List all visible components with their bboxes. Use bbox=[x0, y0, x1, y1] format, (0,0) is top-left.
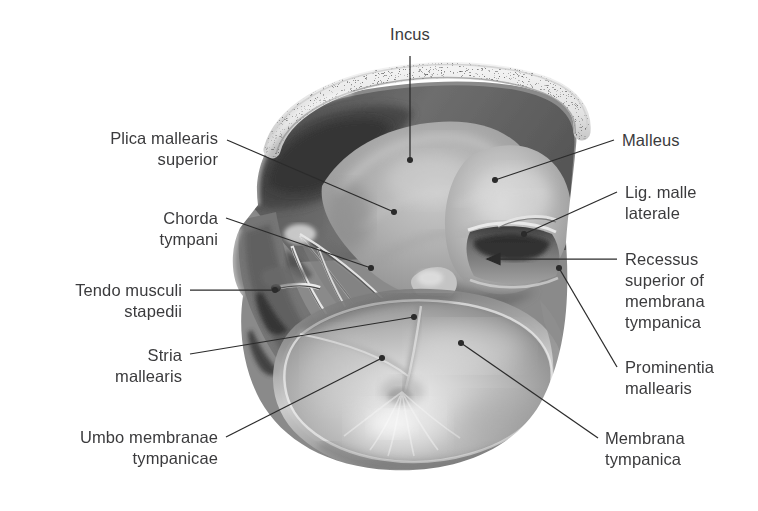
label-tendo-musculi-stapedii: Tendo musculi stapedii bbox=[10, 280, 182, 322]
label-incus: Incus bbox=[350, 24, 470, 45]
label-chorda-tympani: Chorda tympani bbox=[40, 208, 218, 250]
anatomy-figure: Incus Plica mallearis superior Chorda ty… bbox=[0, 0, 758, 511]
label-stria-mallearis: Stria mallearis bbox=[10, 345, 182, 387]
label-plica-mallearis-superior: Plica mallearis superior bbox=[40, 128, 218, 170]
label-umbo-membranae-tympanicae: Umbo membranae tympanicae bbox=[10, 427, 218, 469]
tympanic-cavity-body bbox=[230, 80, 600, 480]
label-prominentia-mallearis: Prominentia mallearis bbox=[625, 357, 755, 399]
label-membrana-tympanica: Membrana tympanica bbox=[605, 428, 745, 470]
leader-line-prominentia-mallearis bbox=[559, 268, 617, 367]
label-malleus: Malleus bbox=[622, 130, 752, 151]
label-lig-malle-laterale: Lig. malle laterale bbox=[625, 182, 755, 224]
label-recessus-superior-membranae-tympanicae: Recessus superior of membrana tympanica bbox=[625, 249, 755, 333]
